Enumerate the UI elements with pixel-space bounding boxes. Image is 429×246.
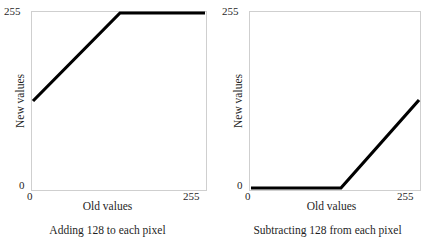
y-tick-max-right: 255	[222, 6, 239, 17]
y-axis-label-left: New values	[14, 74, 26, 128]
figure-two-panel-transfer-functions: 255 0 0 255 Old values New values Adding…	[0, 0, 429, 246]
x-axis-label-right: Old values	[224, 200, 429, 212]
caption-left: Adding 128 to each pixel	[0, 224, 215, 237]
y-tick-min-left: 0	[19, 180, 25, 191]
x-axis-label-left: Old values	[0, 200, 215, 212]
curve-path-right	[251, 100, 419, 188]
plot-area-left	[31, 11, 207, 191]
plot-area-right	[249, 11, 421, 191]
panel-subtracting-128: 255 0 0 255 Old values New values Subtra…	[214, 0, 429, 246]
panel-adding-128: 255 0 0 255 Old values New values Adding…	[0, 0, 215, 246]
caption-right: Subtracting 128 from each pixel	[220, 224, 429, 237]
transfer-curve-right	[250, 12, 420, 190]
curve-path-left	[33, 13, 205, 101]
y-tick-min-right: 0	[237, 180, 243, 191]
y-tick-max-left: 255	[4, 6, 21, 17]
transfer-curve-left	[32, 12, 206, 190]
y-axis-label-right: New values	[232, 74, 244, 128]
